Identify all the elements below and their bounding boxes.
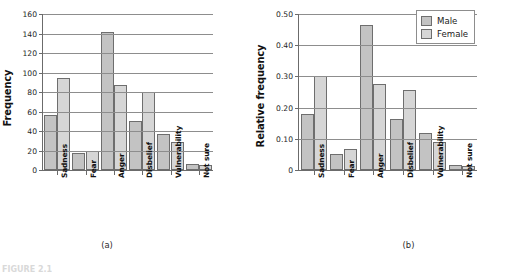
- figure-container: Frequency 020406080100120140160SadnessFe…: [0, 0, 507, 272]
- bar-male-disbelief: [390, 119, 403, 170]
- y-axis-tick-label: 0.10: [276, 134, 293, 143]
- x-axis-category-label: Vulnerability: [174, 126, 183, 178]
- x-axis-category-label: Sadness: [317, 144, 326, 178]
- gridline: [43, 53, 213, 54]
- x-axis-tick: [373, 170, 374, 175]
- bar-male-fear: [72, 153, 85, 170]
- x-axis-category-label: Fear: [347, 160, 356, 178]
- y-axis-tick-label: 20: [27, 146, 37, 155]
- y-axis-tick: [295, 76, 299, 77]
- y-axis-tick-label: 0.30: [276, 72, 293, 81]
- legend-item-female: Female: [421, 27, 468, 40]
- bar-male-sadness: [301, 114, 314, 170]
- gridline: [43, 73, 213, 74]
- x-axis-tick: [433, 170, 434, 175]
- chart-panel-a: Frequency 020406080100120140160SadnessFe…: [0, 0, 254, 272]
- y-axis-tick-label: 40: [27, 127, 37, 136]
- x-axis-category-label: Anger: [376, 154, 385, 178]
- x-axis-tick: [314, 170, 315, 175]
- bar-male-not-sure: [449, 165, 462, 170]
- gridline: [43, 92, 213, 93]
- x-axis-tick: [199, 170, 200, 175]
- y-axis-tick: [295, 45, 299, 46]
- gridline: [43, 112, 213, 113]
- x-axis-tick: [344, 170, 345, 175]
- y-axis-tick-label: 120: [23, 49, 38, 58]
- legend-swatch-male-icon: [421, 16, 432, 26]
- x-axis-tick: [57, 170, 58, 175]
- y-axis-tick: [39, 112, 43, 113]
- legend-label-male: Male: [437, 16, 457, 26]
- legend-item-male: Male: [421, 14, 468, 27]
- y-axis-tick: [39, 131, 43, 132]
- x-axis-tick: [403, 170, 404, 175]
- y-axis-tick: [39, 170, 43, 171]
- x-axis-category-label: Vulnerability: [436, 126, 445, 178]
- y-axis-tick: [295, 170, 299, 171]
- y-axis-tick: [295, 14, 299, 15]
- y-axis-tick-label: 140: [23, 29, 38, 38]
- y-axis-tick: [39, 14, 43, 15]
- subcaption-b: (b): [282, 240, 507, 250]
- y-axis-tick-label: 60: [27, 107, 37, 116]
- gridline: [43, 34, 213, 35]
- y-axis-title-a: Frequency: [2, 18, 16, 178]
- y-axis-tick-label: 0: [32, 166, 37, 175]
- y-axis-tick: [39, 53, 43, 54]
- x-axis-tick: [114, 170, 115, 175]
- bar-male-anger: [360, 25, 373, 170]
- y-axis-tick-label: 0: [288, 166, 293, 175]
- plot-area-a: 020406080100120140160SadnessFearAngerDis…: [42, 14, 213, 171]
- y-axis-tick-label: 0.40: [276, 41, 293, 50]
- x-axis-tick: [86, 170, 87, 175]
- y-axis-tick-label: 160: [23, 10, 38, 19]
- y-axis-tick: [39, 34, 43, 35]
- gridline: [43, 131, 213, 132]
- y-axis-tick: [39, 73, 43, 74]
- x-axis-tick: [462, 170, 463, 175]
- gridline: [43, 14, 213, 15]
- y-axis-tick: [39, 151, 43, 152]
- y-axis-tick: [295, 139, 299, 140]
- x-axis-category-label: Not sure: [202, 143, 211, 178]
- y-axis-tick-label: 0.20: [276, 103, 293, 112]
- x-axis-category-label: Disbelief: [406, 142, 415, 178]
- x-axis-category-label: Sadness: [60, 144, 69, 178]
- gridline: [299, 45, 477, 46]
- bar-male-fear: [330, 154, 343, 170]
- x-axis-category-label: Anger: [117, 154, 126, 178]
- y-axis-tick-label: 80: [27, 88, 37, 97]
- figure-caption: FIGURE 2.1: [2, 265, 52, 272]
- gridline: [299, 108, 477, 109]
- y-axis-tick: [39, 92, 43, 93]
- bar-male-sadness: [44, 115, 57, 170]
- y-axis-tick-label: 0.50: [276, 10, 293, 19]
- x-axis-category-label: Not sure: [465, 143, 474, 178]
- y-axis-title-b: Relative frequency: [255, 16, 269, 176]
- y-axis-tick-label: 100: [23, 68, 38, 77]
- x-axis-tick: [171, 170, 172, 175]
- subcaption-a: (a): [0, 240, 234, 250]
- gridline: [299, 76, 477, 77]
- legend-swatch-female-icon: [421, 29, 432, 39]
- legend: Male Female: [416, 10, 475, 44]
- x-axis-category-label: Disbelief: [145, 142, 154, 178]
- x-axis-tick: [142, 170, 143, 175]
- gridline: [299, 139, 477, 140]
- bar-male-not-sure: [186, 164, 199, 170]
- legend-label-female: Female: [437, 29, 468, 39]
- bar-male-vulnerability: [157, 134, 170, 170]
- x-axis-category-label: Fear: [89, 160, 98, 178]
- bar-male-disbelief: [129, 121, 142, 170]
- y-axis-tick: [295, 108, 299, 109]
- chart-panel-b: Relative frequency 00.100.200.300.400.50…: [254, 0, 507, 272]
